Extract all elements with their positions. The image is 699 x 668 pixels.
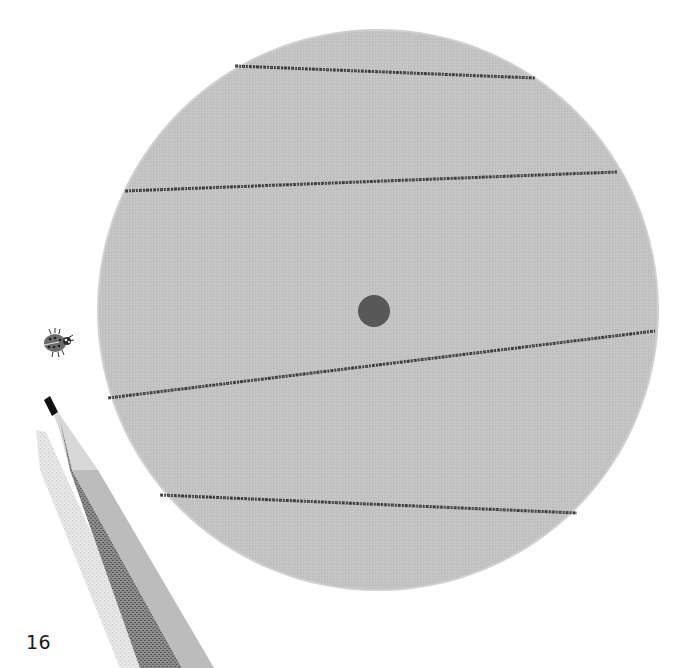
illustration (0, 0, 699, 668)
book-page: 16 (0, 0, 699, 668)
page-number: 16 (26, 631, 51, 653)
pencil-tip (44, 396, 58, 416)
ladybug (44, 328, 74, 357)
center-dot (358, 295, 390, 327)
